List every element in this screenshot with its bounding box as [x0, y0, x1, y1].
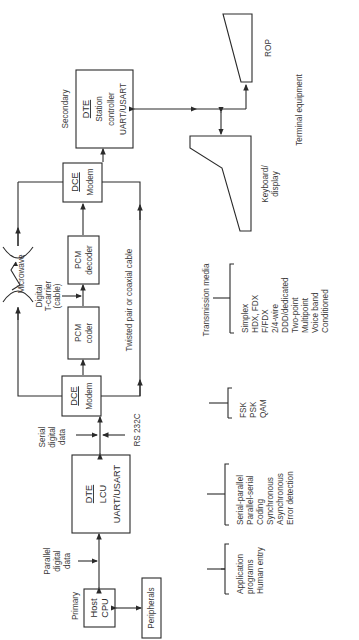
host-cpu-label-2: CPU: [100, 598, 110, 617]
rop-terminal-shape: [223, 14, 252, 82]
dte-station-title: DTE: [81, 100, 91, 118]
parallel-data-label-2: digital: [53, 550, 62, 572]
data-communication-diagram: Host CPU Primary Peripherals Parallel di…: [0, 0, 359, 640]
microwave-label: Microwave: [17, 254, 26, 294]
media-item-9: Conditioned: [321, 289, 330, 333]
dte-station-line2: controller: [107, 92, 116, 126]
dte-bracket-item-2: Parallel-serial: [246, 475, 255, 525]
media-item-4: 2/4-wire: [271, 303, 280, 333]
transmission-media-title: Transmission media: [202, 263, 211, 336]
rop-label: ROP: [264, 39, 273, 57]
keyboard-display-shape: [190, 136, 251, 231]
media-item-5: DDD/dedicated: [281, 277, 290, 333]
pcm-decoder-label-1: PCM: [74, 251, 83, 269]
dte-station-line3: UART/USART: [119, 83, 128, 135]
media-item-7: Multipoint: [301, 297, 310, 333]
primary-label: Primary: [71, 591, 80, 620]
keyboard-label-1: Keyboard/: [261, 165, 270, 203]
dte-station-line1: Station: [95, 96, 104, 122]
dce-bottom-line1: Modem: [85, 382, 94, 409]
pcm-coder-box: [68, 307, 99, 359]
dte-bracket-item-4: Synchronous: [266, 477, 275, 525]
dce-top-title: DCE: [70, 172, 80, 191]
t-carrier-label-3: (cable): [53, 283, 62, 308]
twisted-pair-label: Twisted pair or coaxial cable: [125, 248, 134, 351]
dce-modem-bottom-box: [62, 376, 101, 416]
modem-bracket-item-2: PSK: [249, 401, 258, 418]
dte-bracket-item-1: Serial-parallel: [236, 475, 245, 525]
keyboard-label-2: display: [271, 170, 280, 196]
media-item-6: Two-point: [291, 297, 300, 333]
host-bracket-item-2: programs: [246, 559, 255, 594]
dte-bracket: [225, 464, 229, 525]
dte-lcu-title: DTE: [84, 485, 94, 503]
serial-data-label-1: Serial: [38, 426, 47, 447]
dce-bottom-title: DCE: [69, 386, 79, 405]
pcm-decoder-label-2: decoder: [85, 245, 94, 275]
media-item-1: Simplex: [241, 304, 250, 333]
microwave-feed-bottom: [18, 307, 62, 396]
dte-bracket-item-6: Error detection: [286, 471, 295, 525]
dte-bracket-item-3: Coding: [256, 499, 265, 525]
pcm-coder-label-2: coder: [85, 322, 94, 343]
t-carrier-label-2: T-carrier: [44, 280, 53, 311]
media-bracket: [230, 264, 234, 333]
dte-lcu-line2: UART/USART: [112, 464, 122, 523]
modem-bracket-item-1: FSK: [239, 402, 248, 418]
parallel-data-label-3: data: [63, 553, 72, 569]
media-item-2: HDX, FDX: [251, 294, 260, 333]
rs232-label: RS 232C: [133, 413, 142, 446]
secondary-label: Secondary: [61, 89, 70, 129]
host-bracket-item-3: Human entry: [256, 546, 265, 594]
media-item-3: F/FDX: [261, 309, 270, 333]
serial-data-label-3: data: [58, 429, 67, 445]
media-item-8: Voice band: [311, 292, 320, 333]
serial-data-label-2: digital: [48, 426, 57, 448]
terminal-equipment-caption: Terminal equipment: [295, 74, 304, 146]
twisted-pair-line: [101, 182, 140, 396]
pcm-coder-label-1: PCM: [74, 324, 83, 342]
modem-bracket: [228, 388, 232, 418]
dte-bracket-item-5: Asynchronous: [276, 473, 285, 525]
modem-bracket-item-3: QAM: [259, 399, 268, 418]
dce-modem-top-box: [63, 163, 102, 202]
dce-top-line1: Modem: [86, 168, 95, 195]
host-bracket-item-1: Application: [236, 553, 245, 594]
t-carrier-label-1: Digital: [35, 284, 44, 307]
host-cpu-label-1: Host: [89, 598, 99, 617]
peripherals-label: Peripherals: [147, 587, 156, 628]
parallel-data-label-1: Parallel: [43, 547, 52, 574]
pcm-decoder-box: [68, 236, 99, 284]
dte-lcu-line1: LCU: [98, 485, 108, 503]
